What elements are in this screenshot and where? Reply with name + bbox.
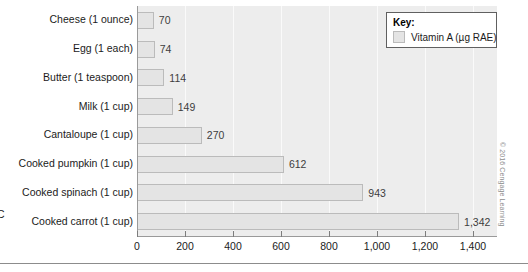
- bar-value-label: 943: [368, 187, 386, 199]
- x-tick-label: 600: [272, 240, 290, 252]
- copyright-credit: © 2016 Cengage Learning: [499, 142, 506, 227]
- bar-value-label: 114: [169, 72, 186, 84]
- bar-value-label: 270: [207, 129, 225, 141]
- x-tick-mark: [233, 231, 234, 237]
- x-tick-label: 0: [134, 240, 140, 252]
- vitamin-a-bar-chart-figure: 70741141492706129431,342 Cheese (1 ounce…: [0, 0, 528, 272]
- bar: [137, 41, 155, 58]
- bar: [137, 184, 363, 201]
- bar: [137, 98, 173, 115]
- category-label: Cheese (1 ounce): [0, 13, 133, 25]
- x-tick-mark: [281, 231, 282, 237]
- bar-row: 270: [137, 123, 497, 148]
- edge-crop-artifact: C: [0, 208, 5, 220]
- bar-row: 943: [137, 180, 497, 205]
- legend-key-box: Key: Vitamin A (µg RAE): [386, 12, 497, 48]
- bar-value-label: 70: [159, 14, 171, 26]
- x-tick-mark: [425, 231, 426, 237]
- bar: [137, 156, 284, 173]
- category-label: Cooked spinach (1 cup): [0, 186, 133, 198]
- legend-swatch-icon: [393, 31, 405, 43]
- legend-entry-label: Vitamin A (µg RAE): [411, 32, 497, 43]
- bar-row: 612: [137, 152, 497, 177]
- bar: [137, 127, 202, 144]
- x-tick-mark: [137, 231, 138, 237]
- x-tick-label: 1,200: [412, 240, 438, 252]
- bar-value-label: 74: [160, 43, 172, 55]
- x-axis-line: [137, 236, 497, 237]
- category-label: Cantaloupe (1 cup): [0, 128, 133, 140]
- bar-row: 149: [137, 94, 497, 119]
- category-label: Cooked pumpkin (1 cup): [0, 157, 133, 169]
- legend-entry-vitamin-a: Vitamin A (µg RAE): [393, 31, 490, 43]
- legend-title: Key:: [393, 17, 490, 29]
- x-tick-mark: [185, 231, 186, 237]
- bar-value-label: 1,342: [464, 216, 490, 228]
- bar: [137, 69, 164, 86]
- bar-row: 114: [137, 65, 497, 90]
- x-tick-label: 1,400: [460, 240, 486, 252]
- bottom-divider: [0, 263, 528, 264]
- bar: [137, 12, 154, 29]
- x-tick-mark: [377, 231, 378, 237]
- x-tick-label: 800: [320, 240, 338, 252]
- category-label: Butter (1 teaspoon): [0, 71, 133, 83]
- category-label: Milk (1 cup): [0, 100, 133, 112]
- x-tick-label: 400: [224, 240, 242, 252]
- x-tick-mark: [329, 231, 330, 237]
- x-tick-mark: [473, 231, 474, 237]
- category-label: Cooked carrot (1 cup): [0, 215, 133, 227]
- bar: [137, 213, 459, 230]
- bar-row: 1,342: [137, 209, 497, 234]
- x-tick-label: 1,000: [364, 240, 390, 252]
- bar-value-label: 612: [289, 158, 307, 170]
- category-label: Egg (1 each): [0, 42, 133, 54]
- bar-value-label: 149: [178, 101, 196, 113]
- y-axis-line: [137, 6, 138, 237]
- x-tick-label: 200: [176, 240, 194, 252]
